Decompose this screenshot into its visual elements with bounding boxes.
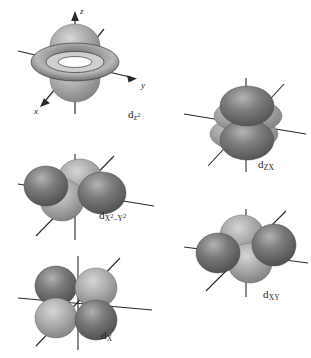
orbital-dx xyxy=(16,252,156,352)
lobe-right-dark xyxy=(78,172,126,214)
axis-label-x: x xyxy=(34,106,38,116)
orbital-dzx xyxy=(180,72,310,177)
orbital-label-dx2y2: dX2–Y2 xyxy=(99,209,126,223)
orbital-dz2-graphic xyxy=(8,4,158,124)
axis-label-y: y xyxy=(141,80,145,90)
lobe-left-dark xyxy=(196,233,240,273)
axis-z-arrowhead xyxy=(71,11,79,21)
orbital-dxy xyxy=(182,205,311,300)
orbital-dx2y2-graphic xyxy=(14,148,159,243)
orbital-dx2y2 xyxy=(14,148,159,243)
orbital-dzx-graphic xyxy=(180,72,310,177)
lobe-left-dark xyxy=(24,166,68,206)
orbital-dx-graphic xyxy=(16,252,156,352)
orbital-dz2: z y x xyxy=(8,4,158,124)
axis-label-z: z xyxy=(80,6,84,16)
orbital-label-dxy: dXY xyxy=(263,288,280,302)
lobe-dark-upper xyxy=(220,86,274,126)
orbital-label-dz2: dz2 xyxy=(128,108,141,122)
orbital-label-dzx: dZX xyxy=(258,158,274,172)
axis-x-arrowhead xyxy=(40,98,50,107)
axis-y-arrowhead xyxy=(127,75,137,82)
orbital-label-dx: dX xyxy=(101,329,112,343)
lobe-lower-left-light xyxy=(35,298,77,338)
orbital-dxy-graphic xyxy=(182,205,311,300)
d-orbital-figure: z y x dz2 xyxy=(0,0,311,358)
torus-hole xyxy=(58,57,92,68)
lobe-right-dark xyxy=(252,224,296,266)
